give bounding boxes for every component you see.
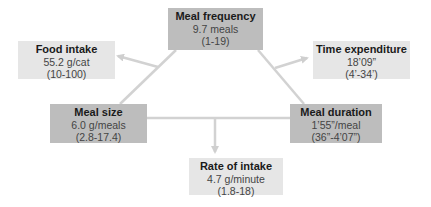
node-range: (4’-34’) bbox=[313, 68, 410, 81]
arrow-to-food-intake bbox=[118, 56, 158, 67]
node-meal-frequency: Meal frequency 9.7 meals (1-19) bbox=[168, 8, 263, 50]
node-range: (10-100) bbox=[18, 68, 115, 81]
node-title: Meal size bbox=[50, 106, 147, 119]
node-range: (1-19) bbox=[168, 35, 263, 48]
node-time-expenditure: Time expenditure 18’09” (4’-34’) bbox=[313, 41, 410, 79]
edge-frequency-duration bbox=[258, 50, 304, 104]
node-range: (1.8-18) bbox=[189, 185, 283, 198]
arrow-to-time-expenditure bbox=[275, 58, 307, 68]
node-food-intake: Food intake 55.2 g/cat (10-100) bbox=[18, 41, 115, 79]
node-meal-duration: Meal duration 1’55”/meal (36”-4’07”) bbox=[290, 104, 382, 143]
node-title: Meal duration bbox=[290, 106, 382, 119]
node-value: 4.7 g/minute bbox=[189, 173, 283, 186]
node-title: Food intake bbox=[18, 43, 115, 56]
node-value: 9.7 meals bbox=[168, 23, 263, 36]
node-value: 1’55”/meal bbox=[290, 119, 382, 132]
node-rate-of-intake: Rate of intake 4.7 g/minute (1.8-18) bbox=[189, 158, 283, 195]
node-range: (2.8-17.4) bbox=[50, 131, 147, 144]
node-meal-size: Meal size 6.0 g/meals (2.8-17.4) bbox=[50, 104, 147, 143]
node-title: Meal frequency bbox=[168, 10, 263, 23]
node-range: (36”-4’07”) bbox=[290, 131, 382, 144]
node-value: 6.0 g/meals bbox=[50, 119, 147, 132]
node-value: 18’09” bbox=[313, 56, 410, 69]
node-value: 55.2 g/cat bbox=[18, 56, 115, 69]
node-title: Time expenditure bbox=[313, 43, 410, 56]
node-title: Rate of intake bbox=[189, 160, 283, 173]
